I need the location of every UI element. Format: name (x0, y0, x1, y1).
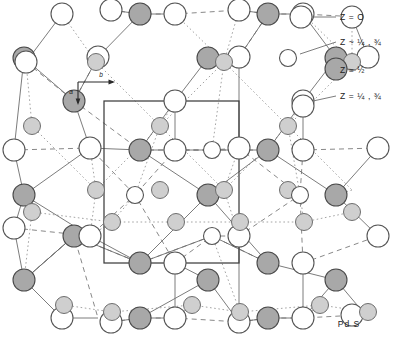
legend-item-z0: Z = O (312, 12, 365, 22)
atom-site (197, 269, 219, 291)
atom-site (104, 304, 121, 321)
axis-label-a: a (69, 88, 73, 95)
atom-site (129, 252, 151, 274)
atom-site (228, 137, 250, 159)
atom-site (325, 269, 347, 291)
legend-label-z-quarter-gray: Z = ¼ , ¾ (340, 91, 382, 101)
atom-site (3, 139, 25, 161)
atom-site (164, 3, 186, 25)
atom-site (184, 297, 201, 314)
atom-site (312, 297, 329, 314)
atom-site (216, 182, 233, 199)
atom-site (367, 137, 389, 159)
atom-site (232, 304, 249, 321)
atom-site (296, 214, 313, 231)
atom-site (15, 51, 37, 73)
atom-site (257, 139, 279, 161)
atom-site (168, 214, 185, 231)
atom-site (13, 269, 35, 291)
dashed-bonds (14, 10, 378, 322)
atom-site (257, 307, 279, 329)
legend-marker (280, 50, 297, 67)
figure-caption: Pd S (338, 319, 360, 329)
atom-site (257, 252, 279, 274)
atom-site (88, 182, 105, 199)
atom-site (127, 187, 144, 204)
atom-site (344, 204, 361, 221)
atom-site (3, 217, 25, 239)
atom-site (164, 139, 186, 161)
atom-site (152, 118, 169, 135)
atom-site (24, 118, 41, 135)
atom-site (51, 3, 73, 25)
atom-site (129, 139, 151, 161)
atom-layer (3, 0, 389, 333)
legend-marker (292, 95, 314, 117)
atom-site (367, 225, 389, 247)
atom-site (197, 47, 219, 69)
atom-site (164, 252, 186, 274)
atom-site (228, 0, 250, 21)
atom-site (79, 225, 101, 247)
legend-label-z0: Z = O (340, 12, 365, 22)
legend-item-z-quarter-gray: Z = ¼ , ¾ (313, 91, 382, 101)
legend-item-z-half: Z = ½ (340, 65, 365, 75)
atom-site (24, 204, 41, 221)
atom-site (164, 307, 186, 329)
atom-site (13, 184, 35, 206)
atom-site (292, 139, 314, 161)
bond-network (14, 10, 378, 322)
atom-site (100, 0, 122, 21)
legend-label-z-half: Z = ½ (340, 65, 365, 75)
atom-site (216, 54, 233, 71)
atom-site (88, 54, 105, 71)
atom-site (164, 90, 186, 112)
atom-site (280, 118, 297, 135)
axis-label-b: b (99, 71, 103, 78)
atom-site (129, 3, 151, 25)
atom-site (360, 304, 377, 321)
solid-bonds (14, 10, 378, 322)
atom-site (56, 297, 73, 314)
atom-site (204, 228, 221, 245)
atom-site (63, 90, 85, 112)
crystal-structure-figure: b a Z = O Z ~ ¼ , ¾ Z = ½ Z = ¼ , ¾ Pd S (0, 0, 393, 360)
legend-marker (290, 6, 312, 28)
atom-site (325, 184, 347, 206)
atom-site (79, 137, 101, 159)
atom-site (292, 187, 309, 204)
atom-site (292, 307, 314, 329)
atom-site (204, 142, 221, 159)
atom-site (129, 307, 151, 329)
legend-label-z-quarter-open: Z ~ ¼ , ¾ (340, 37, 382, 47)
atom-site (104, 214, 121, 231)
atom-site (232, 214, 249, 231)
atom-site (152, 182, 169, 199)
atom-site (257, 3, 279, 25)
atom-site (292, 252, 314, 274)
